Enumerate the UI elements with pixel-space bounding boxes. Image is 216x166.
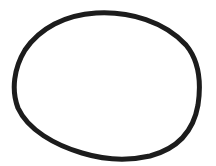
sketch-canvas xyxy=(0,0,216,166)
oval-sketch xyxy=(0,0,216,166)
oval-outline xyxy=(14,13,199,159)
